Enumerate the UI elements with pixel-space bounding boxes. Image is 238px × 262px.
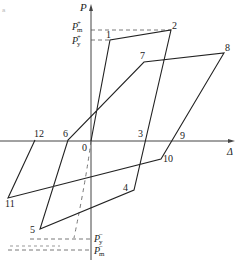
pm-plus-label: P+m — [72, 22, 88, 32]
point-label-1: 1 — [106, 30, 111, 40]
p-axis-label: P — [80, 2, 87, 13]
delta-axis-arrow-icon — [228, 139, 235, 143]
py-plus-label: P+y — [72, 36, 86, 46]
point-label-3: 3 — [138, 129, 143, 139]
point-label-4: 4 — [123, 183, 128, 193]
pm-minus-label: P−m — [94, 246, 110, 256]
point-label-6: 6 — [63, 129, 68, 139]
p-axis-arrow-icon — [89, 4, 93, 11]
virgin-negative-dash — [74, 141, 91, 238]
point-label-11: 11 — [5, 199, 15, 209]
point-label-2: 2 — [172, 21, 177, 31]
pm-minus-sub: m — [99, 250, 104, 258]
point-label-7: 7 — [140, 51, 145, 61]
origin-label: 0 — [82, 143, 87, 153]
point-label-10: 10 — [163, 154, 173, 164]
point-label-8: 8 — [225, 43, 230, 53]
delta-axis-label: Δ — [227, 147, 233, 157]
point-label-5: 5 — [30, 225, 35, 235]
point-label-9: 9 — [180, 131, 185, 141]
corner-mark: a — [2, 7, 5, 13]
point-label-12: 12 — [34, 129, 44, 139]
hysteresis-diagram: a P Δ 0 P+m P+y P−y P−m 1 2 3 4 5 6 7 8 … — [0, 0, 238, 262]
py-plus-sub: y — [77, 40, 81, 48]
